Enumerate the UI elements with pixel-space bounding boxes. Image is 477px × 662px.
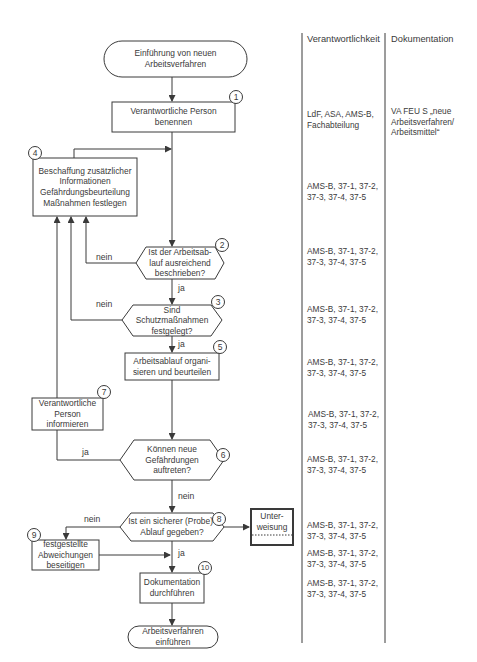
step7-box: Verantwortliche Person informieren	[32, 398, 103, 430]
responsibility-step10: AMS-B, 37-1, 37-2, 37-3, 37-4, 37-5	[307, 578, 378, 599]
responsibility-step9: AMS-B, 37-1, 37-2, 37-3, 37-4, 37-5	[307, 548, 378, 569]
step3-yes-label: ja	[178, 339, 185, 349]
step-number-5: 5	[213, 340, 227, 354]
step-number-2: 2	[215, 238, 229, 252]
step-number-8: 8	[212, 512, 226, 526]
responsibility-column-header: Verantwortlichkeit	[307, 34, 380, 44]
start-terminator: Einführung von neuen Arbeitsverfahren	[104, 41, 247, 77]
step4-box: Beschaffung zusätzlicher Informationen G…	[33, 158, 137, 216]
step1-box: Verantwortliche Person benennen	[112, 102, 235, 132]
step8-yes-label: ja	[178, 548, 185, 558]
step-number-6: 6	[216, 448, 230, 462]
responsibility-step2: AMS-B, 37-1, 37-2, 37-3, 37-4, 37-5	[307, 246, 378, 267]
flowchart-diagram: Verantwortlichkeit Dokumentation Einführ…	[0, 0, 477, 662]
responsibility-step6: AMS-B, 37-1, 37-2, 37-3, 37-4, 37-5	[307, 454, 378, 475]
responsibility-step7: AMS-B, 37-1, 37-2, 37-3, 37-4, 37-5	[308, 409, 379, 430]
step5-box: Arbeitsablauf organi- sieren und beurtei…	[125, 353, 219, 380]
step3-no-label: nein	[96, 299, 112, 309]
responsibility-step5: AMS-B, 37-1, 37-2, 37-3, 37-4, 37-5	[307, 357, 378, 378]
documentation-column-header: Dokumentation	[391, 34, 454, 44]
step6-decision: Können neue Gefährdungen auftreten?	[128, 440, 216, 480]
step3-decision: Sind Schutzmaßnahmen festgelegt?	[128, 305, 216, 336]
step-number-9: 9	[27, 528, 41, 542]
step10-box: Dokumentation durchführen	[140, 573, 204, 603]
step2-no-label: nein	[96, 252, 112, 262]
step-number-7: 7	[97, 385, 111, 399]
step2-decision: Ist der Arbeitsab- lauf ausreichend besc…	[140, 247, 220, 279]
responsibility-step4: AMS-B, 37-1, 37-2, 37-3, 37-4, 37-5	[307, 181, 378, 202]
step8-decision: Ist ein sicherer (Probe)- Ablauf gegeben…	[124, 513, 220, 541]
step9-box: festgestellte Abweichungen beseitigen	[32, 540, 99, 570]
responsibility-step8: AMS-B, 37-1, 37-2, 37-3, 37-4, 37-5	[307, 520, 378, 541]
step-number-3: 3	[211, 295, 225, 309]
step-number-4: 4	[28, 146, 42, 160]
step6-no-label: nein	[178, 491, 194, 501]
responsibility-step3: AMS-B, 37-1, 37-2, 37-3, 37-4, 37-5	[307, 304, 378, 325]
step6-yes-label: ja	[82, 447, 89, 457]
step-number-1: 1	[229, 90, 243, 104]
documentation-step1: VA FEU S „neue Arbeitsverfahren/ Arbeits…	[391, 106, 454, 138]
step2-yes-label: ja	[178, 283, 185, 293]
unterweisung-box: Unter- weisung	[251, 511, 293, 533]
step-number-10: 10	[198, 561, 212, 575]
responsibility-step1: LdF, ASA, AMS-B, Fachabteilung	[307, 109, 374, 130]
end-terminator: Arbeitsverfahren einführen	[128, 626, 218, 648]
step8-no-label: nein	[84, 514, 100, 524]
